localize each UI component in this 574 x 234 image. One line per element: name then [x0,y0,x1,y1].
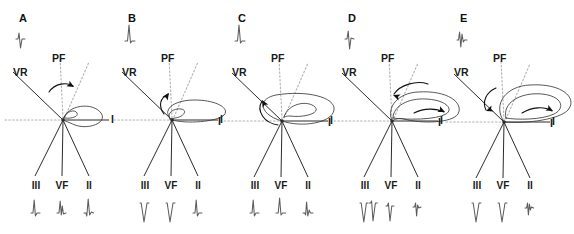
qrs-vector-loop-figure: AVRPFIIIIVFIIBVRPFIIIIIVFIICVRPFIIIIIVFI… [0,0,574,234]
ecg-complex-iii [472,203,481,222]
lead-iii-axis [476,122,504,178]
label-lead-i-right: I [552,115,555,127]
loop-origin-point [502,120,506,124]
lead-ii-axis [504,122,530,178]
ecg-complex-vr [457,32,467,47]
pf-axis-dotted [501,60,504,120]
lead-label-vf: VF [491,180,515,191]
label-pf: PF [493,52,506,64]
vr-axis [454,74,504,122]
rotation-arrow-arc [484,88,496,110]
lead-label-iii: III [465,180,489,191]
ecg-complex-vf [498,203,507,222]
panel-graphics-e [0,0,574,234]
rotation-arrow-head [545,105,554,114]
lead-vf-axis [503,122,504,178]
lead-label-ii: II [518,180,542,191]
ecg-complex-ii [525,203,534,215]
label-vr: VR [454,66,469,78]
panel-e: EVRPFIIIIIVFII [0,0,574,234]
